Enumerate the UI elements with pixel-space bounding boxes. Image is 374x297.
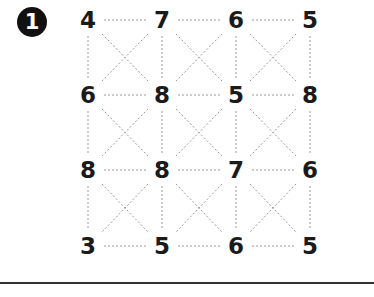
bottom-divider xyxy=(0,282,374,284)
grid-number-r3-c4: 6 xyxy=(295,155,325,185)
grid-number-r3-c1: 8 xyxy=(73,155,103,185)
grid-number-r1-c4: 5 xyxy=(295,5,325,35)
grid-number-r3-c2: 8 xyxy=(147,155,177,185)
number-grid-diagram: 1 4765685888763565 xyxy=(0,0,374,297)
grid-number-r4-c1: 3 xyxy=(73,231,103,261)
grid-number-r2-c4: 8 xyxy=(295,80,325,110)
grid-number-r4-c3: 6 xyxy=(221,231,251,261)
grid-number-r1-c1: 4 xyxy=(73,5,103,35)
grid-number-r4-c4: 5 xyxy=(295,231,325,261)
grid-number-r4-c2: 5 xyxy=(147,231,177,261)
grid-number-r2-c2: 8 xyxy=(147,80,177,110)
grid-number-r2-c1: 6 xyxy=(73,80,103,110)
grid-number-r2-c3: 5 xyxy=(221,80,251,110)
grid-number-r3-c3: 7 xyxy=(221,155,251,185)
grid-number-r1-c2: 7 xyxy=(147,5,177,35)
grid-number-r1-c3: 6 xyxy=(221,5,251,35)
